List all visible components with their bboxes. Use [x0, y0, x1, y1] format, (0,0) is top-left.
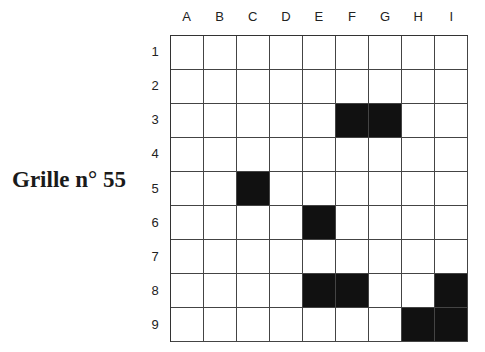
grid-cell-a4[interactable] [171, 138, 204, 172]
grid-cell-f9[interactable] [336, 308, 369, 342]
row-label-5: 5 [147, 181, 163, 196]
grid-cell-c2[interactable] [237, 70, 270, 104]
grid-cell-b4[interactable] [204, 138, 237, 172]
row-label-4: 4 [147, 146, 163, 161]
grid-cell-h7[interactable] [402, 240, 435, 274]
grid-cell-a6[interactable] [171, 206, 204, 240]
row-label-2: 2 [147, 78, 163, 93]
grid-cell-c3[interactable] [237, 104, 270, 138]
grid-cell-d8[interactable] [270, 274, 303, 308]
grid-cell-h2[interactable] [402, 70, 435, 104]
grid-cell-b9[interactable] [204, 308, 237, 342]
column-label-b: B [203, 9, 236, 24]
grid-cell-i6[interactable] [435, 206, 468, 240]
grid-cell-f2[interactable] [336, 70, 369, 104]
column-label-f: F [336, 9, 369, 24]
grid-cell-d4[interactable] [270, 138, 303, 172]
grid-cell-c4[interactable] [237, 138, 270, 172]
grid-cell-a9[interactable] [171, 308, 204, 342]
grid-cell-e3[interactable] [303, 104, 336, 138]
grid-cell-i3[interactable] [435, 104, 468, 138]
grid-cell-b6[interactable] [204, 206, 237, 240]
grid-cell-e2[interactable] [303, 70, 336, 104]
column-label-g: G [369, 9, 402, 24]
column-label-c: C [236, 9, 269, 24]
grid-cell-i1[interactable] [435, 36, 468, 70]
column-label-i: I [435, 9, 468, 24]
grid-cell-h8[interactable] [402, 274, 435, 308]
grid-title: Grille n° 55 [12, 167, 126, 193]
grid-cell-b1[interactable] [204, 36, 237, 70]
grid-cell-e4[interactable] [303, 138, 336, 172]
grid-cell-g2[interactable] [369, 70, 402, 104]
grid-cell-d6[interactable] [270, 206, 303, 240]
row-label-9: 9 [147, 317, 163, 332]
grid-cell-e7[interactable] [303, 240, 336, 274]
grid-cell-c9[interactable] [237, 308, 270, 342]
grid-cell-f5[interactable] [336, 172, 369, 206]
grid-cell-e8[interactable] [303, 274, 336, 308]
grid-cell-e1[interactable] [303, 36, 336, 70]
grid-cell-f8[interactable] [336, 274, 369, 308]
row-label-1: 1 [147, 44, 163, 59]
grid-cell-h3[interactable] [402, 104, 435, 138]
row-label-8: 8 [147, 283, 163, 298]
grid-cell-i2[interactable] [435, 70, 468, 104]
grid-cell-h4[interactable] [402, 138, 435, 172]
grid-cell-h9[interactable] [402, 308, 435, 342]
grid-cell-b7[interactable] [204, 240, 237, 274]
grid-cell-c6[interactable] [237, 206, 270, 240]
grid-cell-d1[interactable] [270, 36, 303, 70]
grid-cell-i8[interactable] [435, 274, 468, 308]
grid-cell-e6[interactable] [303, 206, 336, 240]
grid-cell-d9[interactable] [270, 308, 303, 342]
column-label-a: A [170, 9, 203, 24]
grid-cell-g7[interactable] [369, 240, 402, 274]
grid-cell-i5[interactable] [435, 172, 468, 206]
grid-cell-d2[interactable] [270, 70, 303, 104]
grid-cell-a7[interactable] [171, 240, 204, 274]
grid-cell-g9[interactable] [369, 308, 402, 342]
grid-cell-b5[interactable] [204, 172, 237, 206]
grid-cell-h5[interactable] [402, 172, 435, 206]
puzzle-grid [170, 35, 468, 342]
grid-cell-c8[interactable] [237, 274, 270, 308]
grid-cell-f4[interactable] [336, 138, 369, 172]
grid-cell-i7[interactable] [435, 240, 468, 274]
grid-cell-b3[interactable] [204, 104, 237, 138]
grid-cell-c5[interactable] [237, 172, 270, 206]
grid-cell-e5[interactable] [303, 172, 336, 206]
grid-cell-f6[interactable] [336, 206, 369, 240]
row-label-7: 7 [147, 249, 163, 264]
grid-cell-d5[interactable] [270, 172, 303, 206]
grid-cell-d7[interactable] [270, 240, 303, 274]
grid-cell-h6[interactable] [402, 206, 435, 240]
grid-cell-g8[interactable] [369, 274, 402, 308]
column-label-d: D [269, 9, 302, 24]
column-label-h: H [402, 9, 435, 24]
grid-cell-e9[interactable] [303, 308, 336, 342]
grid-cell-f7[interactable] [336, 240, 369, 274]
grid-cell-i9[interactable] [435, 308, 468, 342]
grid-cell-c1[interactable] [237, 36, 270, 70]
grid-cell-a3[interactable] [171, 104, 204, 138]
grid-cell-c7[interactable] [237, 240, 270, 274]
grid-cell-g3[interactable] [369, 104, 402, 138]
grid-cell-b8[interactable] [204, 274, 237, 308]
grid-cell-a1[interactable] [171, 36, 204, 70]
grid-cell-a5[interactable] [171, 172, 204, 206]
grid-cell-g4[interactable] [369, 138, 402, 172]
grid-cell-a2[interactable] [171, 70, 204, 104]
grid-cell-a8[interactable] [171, 274, 204, 308]
grid-cell-g1[interactable] [369, 36, 402, 70]
grid-cell-d3[interactable] [270, 104, 303, 138]
row-label-6: 6 [147, 215, 163, 230]
grid-cell-g6[interactable] [369, 206, 402, 240]
grid-cell-h1[interactable] [402, 36, 435, 70]
grid-cell-f1[interactable] [336, 36, 369, 70]
row-label-3: 3 [147, 112, 163, 127]
grid-cell-f3[interactable] [336, 104, 369, 138]
grid-cell-b2[interactable] [204, 70, 237, 104]
grid-cell-i4[interactable] [435, 138, 468, 172]
grid-cell-g5[interactable] [369, 172, 402, 206]
